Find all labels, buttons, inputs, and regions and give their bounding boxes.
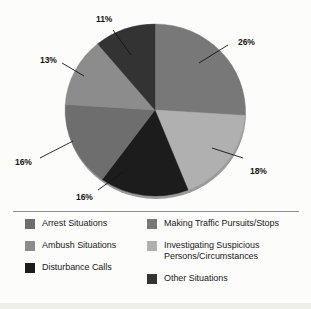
- pie-percent-label: 26%: [238, 37, 255, 47]
- callout-leader-line: [40, 141, 73, 158]
- chart-legend: Arrest SituationsAmbush SituationsDistur…: [0, 218, 311, 302]
- legend-swatch-investigating-suspicious: [147, 241, 157, 251]
- legend-swatch-making-traffic-pursuits-stops: [147, 219, 157, 229]
- legend-item[interactable]: Making Traffic Pursuits/Stops: [147, 218, 307, 229]
- pie-percent-label: 16%: [76, 192, 93, 202]
- legend-divider: [13, 211, 299, 212]
- bottom-band: [0, 303, 311, 309]
- legend-item-label: Making Traffic Pursuits/Stops: [164, 218, 279, 229]
- legend-item-label: Disturbance Calls: [42, 262, 112, 273]
- legend-column-left: Arrest SituationsAmbush SituationsDistur…: [25, 218, 145, 284]
- legend-item-label: Investigating Suspicious Persons/Circums…: [164, 240, 307, 262]
- legend-swatch-disturbance-calls: [25, 263, 35, 273]
- legend-item-label: Arrest Situations: [42, 218, 107, 229]
- legend-item-label: Other Situations: [164, 273, 228, 284]
- pie-chart-figure: 11%26%13%18%16%16% Arrest SituationsAmbu…: [0, 0, 311, 309]
- pie-percent-label: 16%: [15, 157, 32, 167]
- legend-item[interactable]: Disturbance Calls: [25, 262, 145, 273]
- pie-percent-label: 13%: [40, 55, 57, 65]
- pie-percent-label: 18%: [250, 166, 267, 176]
- legend-item[interactable]: Arrest Situations: [25, 218, 145, 229]
- legend-swatch-other-situations: [147, 274, 157, 284]
- pie-slice-group: [65, 24, 245, 196]
- legend-item-label: Ambush Situations: [42, 240, 116, 251]
- pie-chart-plot-area: 11%26%13%18%16%16%: [0, 0, 311, 206]
- legend-item[interactable]: Ambush Situations: [25, 240, 145, 251]
- pie-percent-label: 11%: [96, 14, 112, 24]
- legend-item[interactable]: Investigating Suspicious Persons/Circums…: [147, 240, 307, 262]
- legend-swatch-arrest-situations: [25, 219, 35, 229]
- pie-slice[interactable]: [155, 24, 245, 115]
- legend-swatch-ambush-situations: [25, 241, 35, 251]
- legend-column-right: Making Traffic Pursuits/StopsInvestigati…: [147, 218, 307, 295]
- legend-item[interactable]: Other Situations: [147, 273, 307, 284]
